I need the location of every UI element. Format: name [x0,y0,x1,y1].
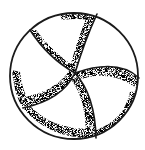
sphere-drawing [0,0,145,150]
figure-canvas: stippled line drawing of a spherical bod… [0,0,145,150]
center-vertex [73,71,76,74]
